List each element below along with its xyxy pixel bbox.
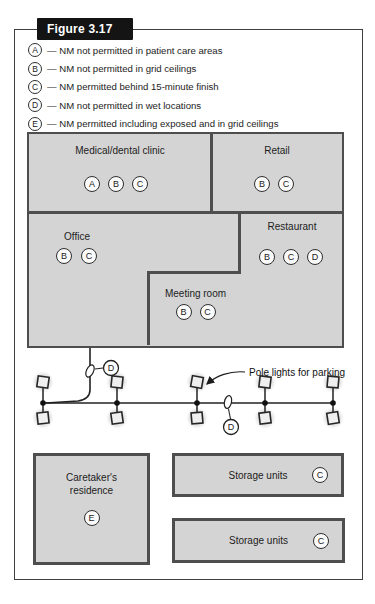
storage-top-label: Storage units [229, 470, 288, 481]
medical-codes: A B C [84, 176, 148, 192]
code-b-icon: B [108, 176, 124, 192]
legend-item-e: E — NM permitted including exposed and i… [28, 115, 348, 133]
code-c-icon: C [28, 80, 42, 94]
room-label-medical: Medical/dental clinic [29, 145, 211, 156]
code-b-icon: B [254, 176, 270, 192]
pole-light [106, 371, 128, 429]
code-a-icon: A [28, 43, 42, 57]
legend-item-a: A — NM not permitted in patient care are… [28, 41, 348, 59]
code-b-icon: B [176, 304, 192, 320]
code-c-icon: C [81, 248, 97, 264]
legend-text-b: — NM not permitted in grid ceilings [47, 63, 196, 74]
legend-item-b: B — NM not permitted in grid ceilings [28, 59, 348, 77]
pole-light [322, 371, 344, 429]
storage-bottom-label: Storage units [229, 535, 288, 546]
figure-title-plate: Figure 3.17 [37, 18, 133, 40]
code-c-icon: C [312, 467, 328, 483]
legend-text-d: — NM not permitted in wet locations [47, 100, 201, 111]
feed-line [46, 348, 90, 403]
pole-light [186, 371, 208, 429]
callout-line [95, 368, 103, 369]
restaurant-codes: B C D [259, 249, 323, 265]
caretaker-label-line1: Caretaker's [66, 472, 117, 483]
meeting-codes: B C [150, 304, 241, 320]
pole-light [254, 371, 276, 429]
legend-text-c: — NM permitted behind 15-minute finish [47, 81, 219, 92]
caretakers-residence: Caretaker's residence E [33, 453, 150, 565]
divider-horizontal [29, 211, 342, 214]
caretaker-label: Caretaker's residence [36, 456, 147, 497]
room-label-meeting: Meeting room [150, 274, 241, 299]
legend-text-e: — NM permitted including exposed and in … [47, 118, 278, 129]
caretaker-label-line2: residence [70, 485, 113, 496]
parking-diagram: D D Pole lights for parking [0, 348, 375, 448]
code-d-icon: D [28, 98, 42, 112]
building-complex: Medical/dental clinic A B C Retail B C O… [27, 132, 344, 348]
legend-text-a: — NM not permitted in patient care areas [47, 45, 222, 56]
legend-item-d: D — NM not permitted in wet locations [28, 96, 348, 114]
code-e-icon: E [28, 117, 42, 131]
feed-code-label: D [108, 363, 115, 373]
legend-item-c: C — NM permitted behind 15-minute finish [28, 78, 348, 96]
retail-codes: B C [254, 176, 294, 192]
code-c-icon: C [132, 176, 148, 192]
code-d-icon: D [307, 249, 323, 265]
code-b-icon: B [28, 62, 42, 76]
code-c-icon: C [278, 176, 294, 192]
pole-light [32, 371, 54, 429]
storage-units-top: Storage units C [172, 453, 344, 497]
room-label-restaurant: Restaurant [242, 221, 342, 232]
code-c-icon: C [283, 249, 299, 265]
conduit-symbol [84, 364, 96, 379]
annotation-arrow [207, 372, 245, 384]
code-b-icon: B [259, 249, 275, 265]
legend: A — NM not permitted in patient care are… [28, 41, 348, 133]
storage-units-bottom: Storage units C [172, 518, 345, 563]
meeting-room: Meeting room B C [147, 271, 241, 345]
code-c-icon: C [200, 304, 216, 320]
conduit-symbol [223, 395, 233, 409]
room-label-retail: Retail [213, 145, 341, 156]
code-a-icon: A [84, 176, 100, 192]
code-c-icon: C [313, 533, 329, 549]
pole-lights-annotation: Pole lights for parking [249, 367, 345, 378]
room-label-office: Office [47, 231, 107, 242]
office-codes: B C [56, 248, 97, 264]
code-e-icon: E [84, 510, 100, 526]
callout-line [229, 409, 231, 419]
figure-title: Figure 3.17 [47, 22, 113, 36]
line-code-label: D [228, 422, 235, 432]
code-b-icon: B [56, 248, 72, 264]
